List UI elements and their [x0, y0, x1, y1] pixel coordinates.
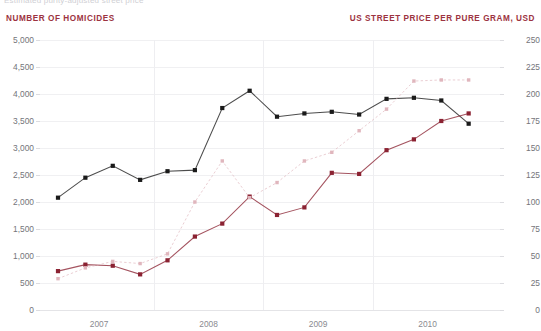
right-axis-tick: 225 [506, 63, 540, 71]
left-axis-tickmark [36, 67, 40, 68]
right-axis-tickmark [500, 256, 504, 257]
data-point-marker [467, 78, 470, 81]
right-axis-tick: 250 [506, 36, 540, 44]
left-axis-tick: 3,500 [0, 117, 34, 125]
series-line [58, 91, 469, 198]
left-axis-tickmark [36, 175, 40, 176]
data-point-marker [439, 98, 443, 102]
data-point-marker [111, 264, 115, 268]
series-line [58, 113, 469, 274]
data-point-marker [193, 234, 197, 238]
data-point-marker [83, 176, 87, 180]
data-point-marker [84, 266, 87, 269]
left-axis-tick: 4,000 [0, 90, 34, 98]
data-point-marker [357, 172, 361, 176]
right-axis-tickmark [500, 94, 504, 95]
data-point-marker [302, 205, 306, 209]
data-point-marker [412, 96, 416, 100]
chart-container: Estimated purity-adjusted street price N… [0, 0, 541, 331]
clipped-caption: Estimated purity-adjusted street price [4, 0, 264, 6]
data-point-marker [111, 164, 115, 168]
data-point-marker [412, 79, 415, 82]
right-axis-tickmark [500, 310, 504, 311]
series-line [58, 80, 469, 279]
left-axis-tickmark [36, 229, 40, 230]
series-layer [40, 40, 500, 310]
x-axis-tick: 2008 [179, 320, 239, 328]
data-point-marker [248, 196, 251, 199]
right-axis-tickmark [500, 175, 504, 176]
data-point-marker [467, 111, 471, 115]
data-point-marker [384, 97, 388, 101]
left-axis-tick: 3,000 [0, 144, 34, 152]
data-point-marker [275, 181, 278, 184]
data-point-marker [248, 89, 252, 93]
right-axis-tick: 200 [506, 90, 540, 98]
left-axis-tickmark [36, 94, 40, 95]
data-point-marker [467, 122, 471, 126]
right-axis-tickmark [500, 67, 504, 68]
data-point-marker [138, 272, 142, 276]
data-point-marker [303, 159, 306, 162]
left-axis-tickmark [36, 202, 40, 203]
data-point-marker [56, 277, 59, 280]
data-point-marker [275, 213, 279, 217]
data-point-marker [220, 222, 224, 226]
right-axis-tick: 150 [506, 144, 540, 152]
data-point-marker [56, 196, 60, 200]
data-point-marker [193, 168, 197, 172]
right-axis-title: US STREET PRICE PER PURE GRAM, USD [350, 14, 535, 23]
data-point-marker [384, 148, 388, 152]
left-axis-tickmark [36, 148, 40, 149]
x-axis-tick: 2010 [398, 320, 458, 328]
data-point-marker [193, 200, 196, 203]
left-axis-tick: 1,000 [0, 252, 34, 260]
left-axis-tick: 0 [0, 306, 34, 314]
data-point-marker [111, 260, 114, 263]
right-axis-tickmark [500, 40, 504, 41]
left-axis-title: NUMBER OF HOMICIDES [6, 14, 115, 23]
right-axis-tickmark [500, 202, 504, 203]
left-axis-tickmark [36, 256, 40, 257]
data-point-marker [221, 159, 224, 162]
right-axis-tickmark [500, 283, 504, 284]
data-point-marker [165, 258, 169, 262]
right-axis-tickmark [500, 229, 504, 230]
left-axis-tickmark [36, 283, 40, 284]
data-point-marker [330, 171, 334, 175]
left-axis-tick: 500 [0, 279, 34, 287]
data-point-marker [138, 178, 142, 182]
x-axis-tick: 2007 [69, 320, 129, 328]
x-axis-tick: 2009 [288, 320, 348, 328]
data-point-marker [412, 137, 416, 141]
data-point-marker [357, 129, 360, 132]
right-axis-tick: 50 [506, 252, 540, 260]
left-axis-tick: 5,000 [0, 36, 34, 44]
data-point-marker [439, 119, 443, 123]
plot-area [40, 40, 500, 310]
right-axis-tick: 125 [506, 171, 540, 179]
left-axis-tickmark [36, 310, 40, 311]
right-axis-tickmark [500, 121, 504, 122]
right-axis-tick: 25 [506, 279, 540, 287]
right-axis-tick: 0 [506, 306, 540, 314]
right-axis-tick: 100 [506, 198, 540, 206]
left-axis-tick: 4,500 [0, 63, 34, 71]
data-point-marker [166, 252, 169, 255]
left-axis-tick: 2,000 [0, 198, 34, 206]
data-point-marker [330, 151, 333, 154]
right-axis-tick: 175 [506, 117, 540, 125]
data-point-marker [357, 112, 361, 116]
gridline-horizontal [40, 310, 500, 311]
left-axis-tick: 1,500 [0, 225, 34, 233]
right-axis-tick: 75 [506, 225, 540, 233]
data-point-marker [138, 262, 141, 265]
left-axis-tickmark [36, 40, 40, 41]
data-point-marker [302, 111, 306, 115]
data-point-marker [275, 115, 279, 119]
left-axis-tick: 2,500 [0, 171, 34, 179]
right-axis-tickmark [500, 148, 504, 149]
data-point-marker [440, 78, 443, 81]
data-point-marker [220, 106, 224, 110]
left-axis-tickmark [36, 121, 40, 122]
